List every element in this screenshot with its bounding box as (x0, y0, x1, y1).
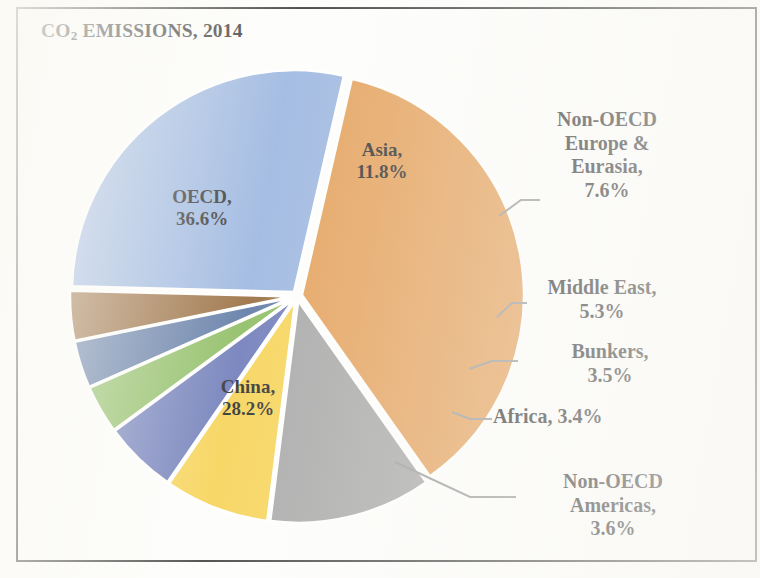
slice-label-asia: Asia, 11.8% (327, 139, 437, 184)
slice-label-non-oecd-europe-eurasia: Non-OECD Europe & Eurasia, 7.6% (512, 108, 702, 202)
slice-label-middle-east: Middle East, 5.3% (497, 276, 707, 323)
slice-label-africa: Africa, 3.4% (493, 405, 708, 429)
pie-slices-group (70, 70, 524, 523)
slice-label-china: China, 28.2% (178, 376, 318, 421)
chart-figure: CO2 EMISSIONS, 2014 OECD, 36.6% Asia, 11… (0, 0, 760, 578)
slice-label-bunkers: Bunkers, 3.5% (520, 340, 700, 387)
pie-slice-china (72, 70, 344, 292)
slice-label-non-oecd-americas: Non-OECD Americas, 3.6% (513, 470, 713, 541)
slice-label-oecd: OECD, 36.6% (132, 186, 272, 231)
